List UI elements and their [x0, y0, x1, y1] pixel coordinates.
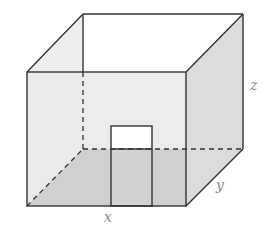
door-lower — [111, 149, 152, 206]
label-y: y — [215, 177, 225, 193]
door-opening — [111, 126, 152, 149]
label-x: x — [104, 209, 112, 225]
label-z: z — [249, 77, 258, 93]
open-box-diagram: x y z — [0, 0, 263, 227]
